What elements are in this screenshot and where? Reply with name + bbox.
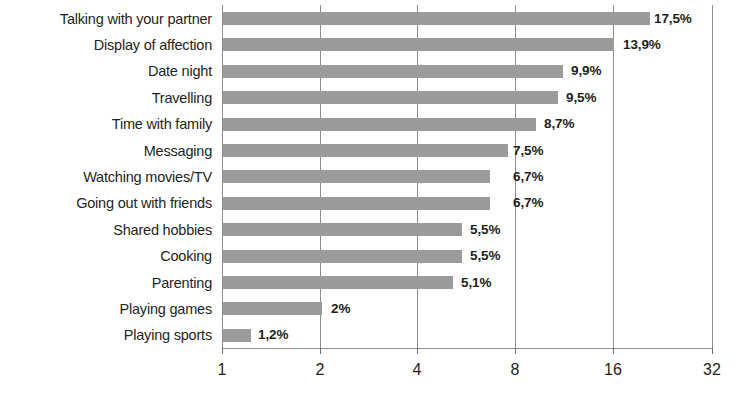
x-axis-tick-label: 16 <box>604 362 622 378</box>
bar <box>223 91 558 104</box>
category-label: Shared hobbies <box>0 223 212 237</box>
category-label: Going out with friends <box>0 196 212 210</box>
x-axis-tick <box>712 348 713 354</box>
category-axis: Talking with your partnerDisplay of affe… <box>0 0 212 348</box>
category-label: Time with family <box>0 117 212 131</box>
bar <box>223 329 251 342</box>
bar <box>223 118 536 131</box>
x-axis-line <box>222 348 713 349</box>
x-axis-tick-label: 1 <box>218 362 227 378</box>
category-label: Travelling <box>0 91 212 105</box>
x-axis-tick-label: 4 <box>413 362 422 378</box>
bar <box>223 12 650 25</box>
bar-value-label: 9,5% <box>566 91 596 104</box>
bar <box>223 65 563 78</box>
x-axis-tick-label: 8 <box>511 362 520 378</box>
x-axis-labels: 12481632 <box>0 362 748 386</box>
bar-value-label: 6,7% <box>513 170 543 183</box>
x-axis-tick <box>320 348 321 354</box>
bar <box>223 144 508 157</box>
bar-value-label: 17,5% <box>654 12 692 25</box>
x-axis-tick-label: 32 <box>703 362 721 378</box>
bar-value-label: 8,7% <box>544 117 574 130</box>
category-label: Playing sports <box>0 328 212 342</box>
plot-area: 17,5%13,9%9,9%9,5%8,7%7,5%6,7%6,7%5,5%5,… <box>222 5 712 348</box>
bar <box>223 197 490 210</box>
bar-value-label: 5,1% <box>461 276 491 289</box>
category-label: Cooking <box>0 249 212 263</box>
bar-chart: Talking with your partnerDisplay of affe… <box>0 0 748 395</box>
gridline <box>613 5 614 348</box>
bar-value-label: 5,5% <box>470 223 500 236</box>
bar <box>223 38 614 51</box>
bar-value-label: 5,5% <box>470 249 500 262</box>
bar <box>223 223 462 236</box>
x-axis-tick <box>515 348 516 354</box>
category-label: Playing games <box>0 302 212 316</box>
category-label: Watching movies/TV <box>0 170 212 184</box>
x-axis-tick <box>417 348 418 354</box>
x-axis-tick <box>222 348 223 354</box>
bar <box>223 170 490 183</box>
bar-value-label: 2% <box>331 302 350 315</box>
bar-value-label: 6,7% <box>513 196 543 209</box>
bar <box>223 276 453 289</box>
bar-value-label: 1,2% <box>258 328 288 341</box>
x-axis-tick <box>613 348 614 354</box>
bar-value-label: 7,5% <box>513 144 543 157</box>
bar <box>223 302 322 315</box>
category-label: Display of affection <box>0 38 212 52</box>
gridline <box>712 5 713 348</box>
category-label: Messaging <box>0 144 212 158</box>
bar-value-label: 9,9% <box>571 64 601 77</box>
category-label: Date night <box>0 64 212 78</box>
category-label: Talking with your partner <box>0 12 212 26</box>
category-label: Parenting <box>0 276 212 290</box>
bar-value-label: 13,9% <box>623 38 661 51</box>
x-axis-tick-label: 2 <box>316 362 325 378</box>
bar <box>223 250 462 263</box>
